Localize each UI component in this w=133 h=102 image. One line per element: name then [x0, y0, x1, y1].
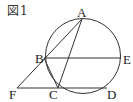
label-B: B — [35, 51, 44, 66]
line-AC — [58, 19, 82, 88]
circle — [46, 19, 121, 94]
geometry-figure: 図1 A B E F C D — [0, 0, 133, 102]
label-F: F — [9, 87, 16, 102]
label-A: A — [77, 5, 87, 20]
label-D: D — [107, 87, 116, 102]
label-C: C — [49, 87, 58, 102]
label-E: E — [123, 52, 131, 67]
line-FA — [17, 19, 82, 88]
line-BC — [44, 58, 58, 88]
figure-caption: 図1 — [7, 1, 29, 18]
